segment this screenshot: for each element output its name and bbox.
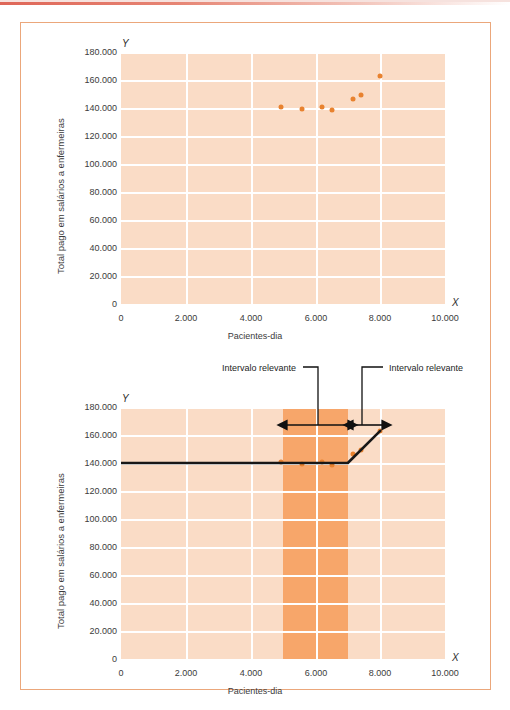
- y-axis-title: Total pago em salários a enfermeiras: [55, 118, 66, 274]
- x-axis-letter: X: [452, 652, 459, 663]
- gridline-x-6000: [316, 52, 318, 304]
- gridline-y-180000: [121, 52, 445, 54]
- x-axis-title: Pacientes-dia: [0, 331, 510, 341]
- gridline-x-8000: [380, 52, 382, 304]
- gridline-x-8000: [380, 407, 382, 659]
- data-point: [350, 96, 355, 101]
- annotation-label-relevant-range-2: Intervalo relevante: [389, 363, 463, 373]
- plot-area-bottom: [121, 407, 445, 659]
- y-tick: 0: [53, 654, 117, 664]
- data-point: [329, 108, 334, 113]
- y-axis-letter: Y: [122, 38, 129, 49]
- y-tick: 160.000: [53, 75, 117, 85]
- data-point: [319, 104, 324, 109]
- gridline-y-40000: [121, 603, 445, 605]
- gridline-y-120000: [121, 491, 445, 493]
- y-tick: 140.000: [53, 458, 117, 468]
- data-point: [279, 105, 284, 110]
- y-tick: 0: [53, 299, 117, 309]
- gridline-y-100000: [121, 164, 445, 166]
- data-point: [300, 106, 305, 111]
- data-point: [358, 447, 363, 452]
- y-tick: 180.000: [53, 402, 117, 412]
- data-point: [378, 428, 383, 433]
- y-axis-title: Total pago em salários a enfermeiras: [55, 473, 66, 629]
- data-point: [358, 92, 363, 97]
- x-axis-letter: X: [452, 297, 459, 308]
- y-tick: 160.000: [53, 430, 117, 440]
- plot-area-top: [121, 52, 445, 304]
- data-point: [319, 459, 324, 464]
- gridline-y-180000: [121, 407, 445, 409]
- data-point: [350, 451, 355, 456]
- chart-costline-bottom: Intervalo relevante Intervalo relevante …: [0, 355, 510, 710]
- x-tick: 2.000: [175, 668, 198, 678]
- gridline-y-20000: [121, 276, 445, 278]
- gridline-y-100000: [121, 519, 445, 521]
- data-point: [378, 73, 383, 78]
- gridline-y-120000: [121, 136, 445, 138]
- y-axis-letter: Y: [122, 393, 129, 404]
- data-point: [279, 460, 284, 465]
- gridline-y-60000: [121, 220, 445, 222]
- x-tick: 6.000: [305, 668, 328, 678]
- gridline-y-20000: [121, 631, 445, 633]
- annotation-label-relevant-range-1: Intervalo relevante: [222, 363, 296, 373]
- gridline-y-40000: [121, 248, 445, 250]
- x-tick: 8.000: [369, 668, 392, 678]
- x-tick: 4.000: [240, 313, 263, 323]
- gridline-x-4000: [251, 407, 253, 659]
- gridline-y-80000: [121, 547, 445, 549]
- x-tick: 0: [118, 313, 123, 323]
- x-tick: 4.000: [240, 668, 263, 678]
- x-axis-title: Pacientes-dia: [0, 686, 510, 696]
- gridline-y-80000: [121, 192, 445, 194]
- x-tick: 8.000: [369, 313, 392, 323]
- gridline-x-4000: [251, 52, 253, 304]
- gridline-y-160000: [121, 435, 445, 437]
- gridline-x-6000: [316, 407, 318, 659]
- y-tick: 140.000: [53, 103, 117, 113]
- gridline-y-60000: [121, 575, 445, 577]
- x-tick: 2.000: [175, 313, 198, 323]
- x-tick: 10.000: [431, 313, 459, 323]
- data-point: [300, 461, 305, 466]
- gridline-x-2000: [186, 52, 188, 304]
- x-tick: 10.000: [431, 668, 459, 678]
- data-point: [329, 463, 334, 468]
- gridline-x-2000: [186, 407, 188, 659]
- y-tick: 180.000: [53, 47, 117, 57]
- x-tick: 6.000: [305, 313, 328, 323]
- chart-scatter-top: Y X 180.000 160.000 140.000 120.000 100.…: [0, 0, 510, 355]
- x-tick: 0: [118, 668, 123, 678]
- gridline-y-160000: [121, 80, 445, 82]
